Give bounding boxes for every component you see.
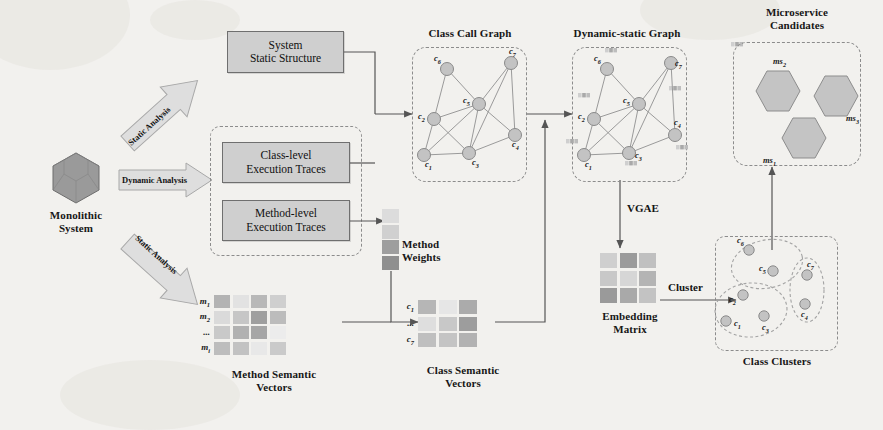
- method-level-execution-traces-box[interactable]: Method-level Execution Traces: [222, 200, 350, 241]
- method-semantic-vectors-cell: [270, 311, 286, 324]
- dynamic-static-graph: c6c7c5c2c1c3c4: [572, 47, 687, 182]
- graph-node-c4[interactable]: [669, 129, 682, 142]
- method-semantic-vectors-cell: [233, 295, 249, 308]
- method-semantic-vectors-cell: [251, 342, 267, 355]
- method-semantic-vectors-cell: [233, 326, 249, 339]
- graph-node-label-c1: c1: [425, 159, 432, 171]
- system-static-structure-box[interactable]: System Static Structure: [227, 31, 344, 73]
- cluster-node-c6[interactable]: [744, 245, 754, 255]
- cluster-node-c2[interactable]: [738, 290, 748, 300]
- graph-node-label-c5: c5: [623, 95, 630, 107]
- graph-node-c2[interactable]: [428, 113, 441, 126]
- graph-node-label-c4: c4: [512, 139, 519, 151]
- embedding-matrix-cell: [600, 288, 617, 303]
- node-feature-vector: [676, 145, 688, 149]
- class-semantic-vectors-matrix: c1...c7: [418, 300, 514, 350]
- graph-node-c6[interactable]: [441, 63, 454, 76]
- method-semantic-vectors-row-label: ...: [188, 327, 210, 337]
- graph-node-c3[interactable]: [623, 147, 636, 160]
- monolithic-system-icon: [48, 150, 104, 206]
- graph-node-label-c3: c3: [472, 157, 479, 169]
- graph-edge: [434, 69, 447, 119]
- graph-node-c2[interactable]: [588, 113, 601, 126]
- method-semantic-vectors-cell: [251, 311, 267, 324]
- method-semantic-vectors-row-label: mi: [188, 342, 210, 354]
- graph-node-label-c6: c6: [434, 53, 441, 65]
- graph-edge: [594, 119, 629, 153]
- embedding-matrix-caption: Embedding Matrix: [583, 310, 677, 335]
- class-semantic-vectors-cell: [459, 317, 477, 331]
- graph-node-label-c7: c7: [675, 58, 682, 70]
- class-call-graph-caption: Class Call Graph: [400, 27, 540, 40]
- graph-node-label-c2: c2: [418, 111, 425, 123]
- method-semantic-vectors-cell: [270, 326, 286, 339]
- class-semantic-vectors-cell: [439, 317, 457, 331]
- node-feature-vector: [566, 139, 578, 143]
- class-semantic-vectors-cell: [459, 333, 477, 347]
- method-semantic-vectors-cell: [251, 326, 267, 339]
- method-semantic-vectors-caption: Method Semantic Vectors: [204, 368, 344, 393]
- embedding-matrix-cell: [639, 271, 656, 286]
- microservice-label-ms3: ms3: [846, 113, 859, 125]
- graph-node-c5[interactable]: [473, 98, 486, 111]
- cluster-node-label-c5: c5: [759, 263, 766, 275]
- node-feature-vector: [605, 48, 617, 52]
- method-weights-cell: [382, 240, 399, 254]
- dynamic-analysis-arrow-label: Dynamic Analysis: [122, 175, 187, 185]
- embedding-matrix-cell: [600, 253, 617, 268]
- class-semantic-vectors-row-label: ...: [392, 318, 414, 328]
- class-semantic-vectors-cell: [459, 300, 477, 314]
- method-semantic-vectors-cell: [214, 311, 230, 324]
- graph-node-label-c3: c3: [635, 150, 642, 162]
- class-semantic-vectors-row-label: c7: [392, 334, 414, 346]
- method-semantic-vectors-row-label: m2: [188, 311, 210, 323]
- graph-edge: [511, 63, 515, 135]
- paper-blotch: [0, 0, 130, 70]
- cluster-node-label-c4: c4: [801, 309, 808, 321]
- microservice-hexagon-ms2[interactable]: [755, 70, 801, 116]
- node-feature-vector: [669, 86, 681, 90]
- embedding-matrix-cell: [639, 288, 656, 303]
- class-semantic-vectors-caption: Class Semantic Vectors: [398, 364, 528, 389]
- class-level-execution-traces-box[interactable]: Class-level Execution Traces: [222, 142, 350, 183]
- graph-edge: [594, 104, 639, 119]
- cluster-node-label-c6: c6: [737, 235, 744, 247]
- method-semantic-vectors-cell: [233, 342, 249, 355]
- node-feature-vector: [578, 93, 590, 97]
- vgae-label: VGAE: [627, 202, 659, 214]
- cluster-node-c7[interactable]: [802, 270, 812, 280]
- class-semantic-vectors-cell: [418, 300, 436, 314]
- cluster-node-label-c2: c2: [729, 294, 736, 306]
- class-semantic-vectors-cell: [439, 333, 457, 347]
- graph-node-c5[interactable]: [633, 98, 646, 111]
- graph-node-label-c1: c1: [585, 159, 592, 171]
- method-weights-cell: [382, 225, 399, 239]
- embedding-matrix-cell: [620, 271, 637, 286]
- graph-node-label-c6: c6: [594, 53, 601, 65]
- graph-node-label-c2: c2: [578, 111, 585, 123]
- cluster-node-c5[interactable]: [768, 266, 778, 276]
- graph-node-c6[interactable]: [601, 63, 614, 76]
- cluster-node-c1[interactable]: [721, 316, 731, 326]
- cluster-label: Cluster: [668, 281, 703, 293]
- cluster-node-c4[interactable]: [800, 299, 810, 309]
- microservice-candidates: ms2ms3ms1: [733, 42, 861, 166]
- graph-node-c7[interactable]: [505, 57, 518, 70]
- class-semantic-vectors-row-label: c1: [392, 301, 414, 313]
- method-semantic-vectors-cell: [214, 342, 230, 355]
- cluster-node-label-c1: c1: [734, 318, 741, 330]
- cluster-node-c3[interactable]: [759, 311, 769, 321]
- graph-node-label-c5: c5: [463, 95, 470, 107]
- method-semantic-vectors-cell: [214, 326, 230, 339]
- graph-edge: [434, 119, 469, 153]
- method-semantic-vectors-matrix: m1m2...mi: [214, 295, 344, 357]
- monolithic-system-label: Monolithic System: [26, 209, 126, 234]
- method-semantic-vectors-cell: [251, 295, 267, 308]
- graph-edge: [594, 69, 607, 119]
- microservice-hexagon-ms1[interactable]: [781, 117, 827, 163]
- graph-node-label-c7: c7: [509, 46, 516, 58]
- cluster-node-label-c3: c3: [762, 322, 769, 334]
- class-semantic-vectors-cell: [418, 333, 436, 347]
- microservice-label-ms1: ms1: [763, 155, 776, 167]
